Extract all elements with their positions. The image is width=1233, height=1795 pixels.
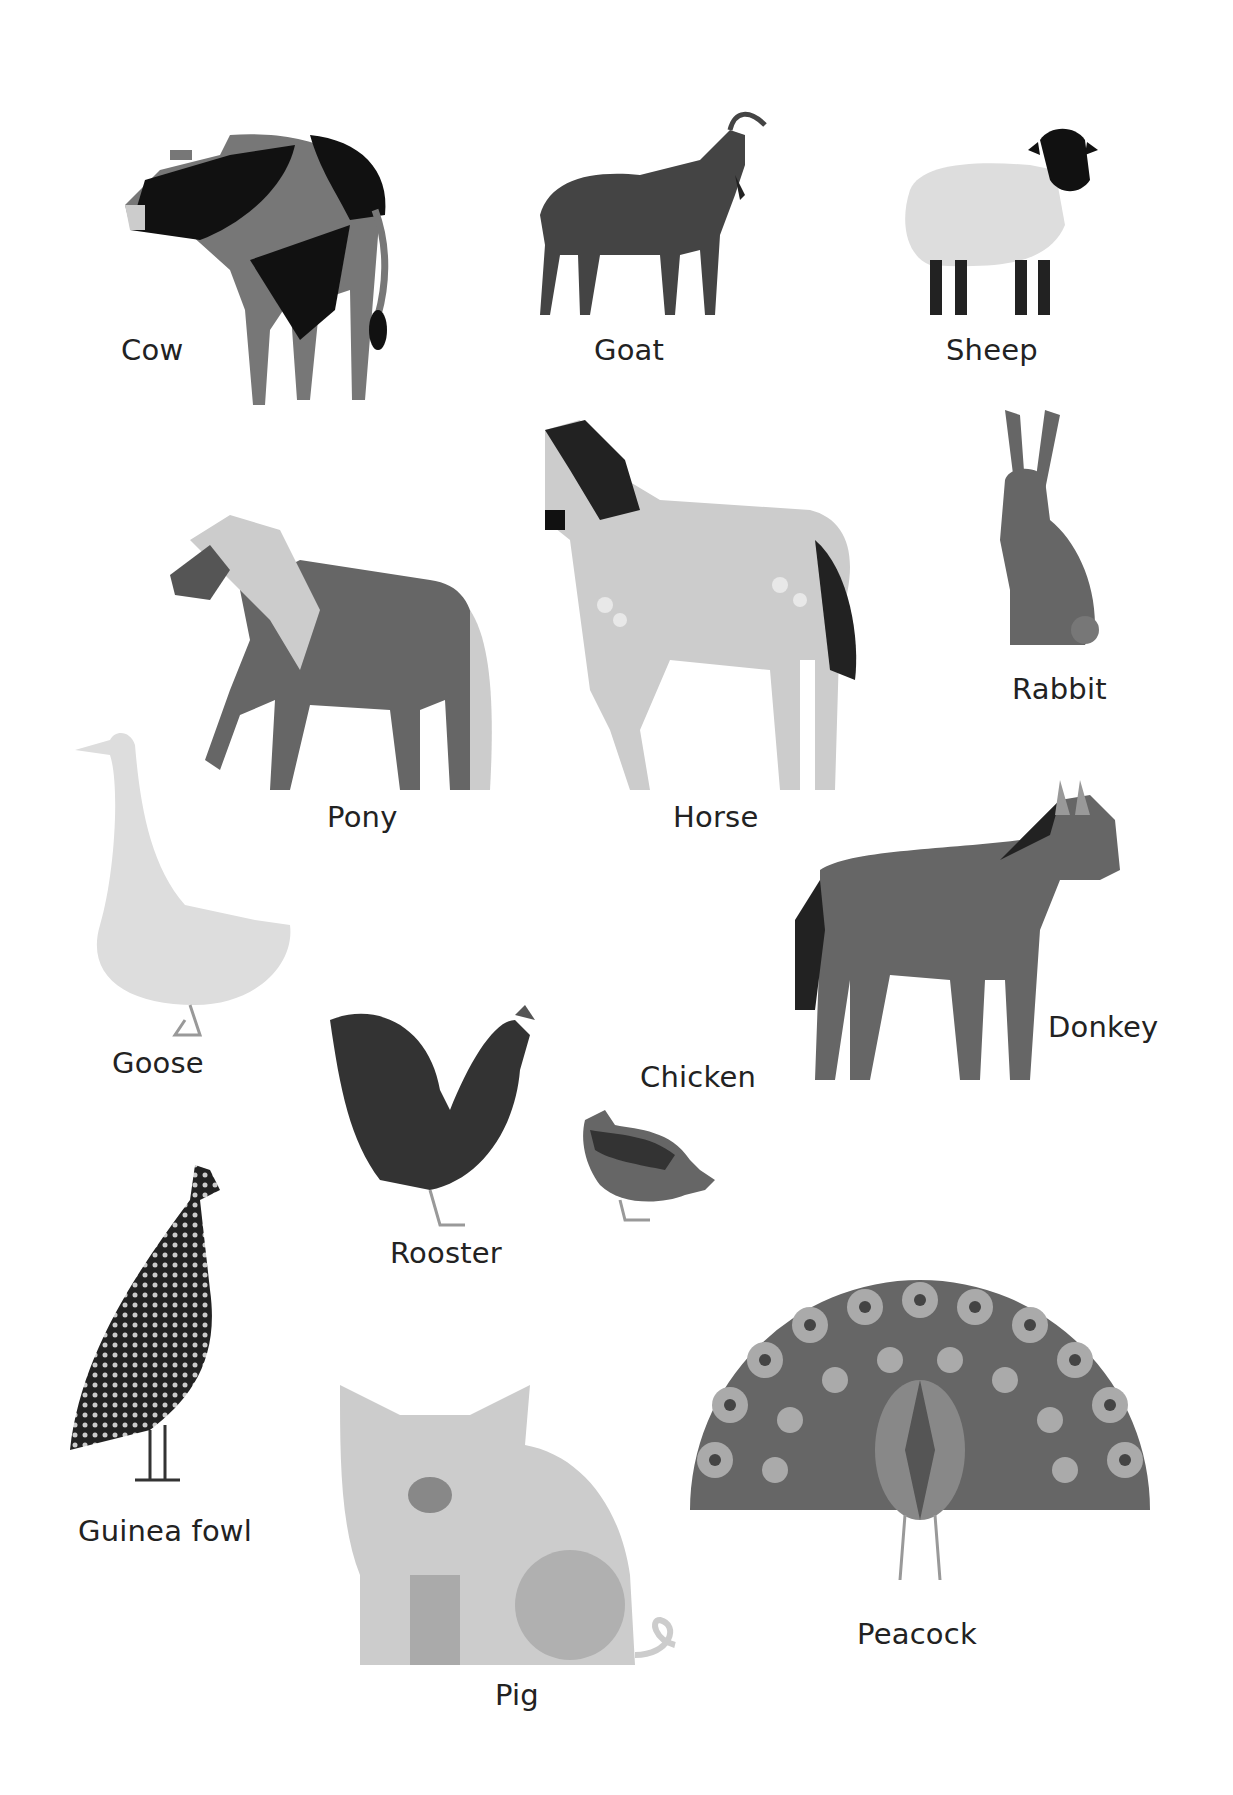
pony-label: Pony — [327, 800, 398, 834]
chicken-illustration — [580, 1110, 720, 1225]
sheep-label: Sheep — [946, 333, 1038, 367]
peacock-label: Peacock — [857, 1617, 977, 1651]
sheep-illustration — [890, 120, 1120, 320]
rooster-label: Rooster — [390, 1236, 502, 1270]
goat-illustration — [530, 105, 780, 325]
peacock-illustration — [690, 1210, 1150, 1600]
donkey-label: Donkey — [1048, 1010, 1158, 1044]
rabbit-illustration — [985, 410, 1115, 650]
rooster-illustration — [320, 1000, 540, 1230]
pig-label: Pig — [495, 1678, 539, 1712]
cow-illustration — [120, 130, 400, 410]
rabbit-label: Rabbit — [1012, 672, 1107, 706]
chicken-label: Chicken — [640, 1060, 756, 1094]
goose-illustration — [65, 725, 295, 1045]
cow-label: Cow — [121, 333, 183, 367]
pig-illustration — [320, 1375, 700, 1675]
horse-illustration — [530, 410, 870, 800]
goose-label: Goose — [112, 1046, 204, 1080]
guinea-fowl-label: Guinea fowl — [78, 1514, 252, 1548]
guinea-fowl-illustration — [70, 1160, 250, 1500]
horse-label: Horse — [673, 800, 758, 834]
goat-label: Goat — [594, 333, 664, 367]
